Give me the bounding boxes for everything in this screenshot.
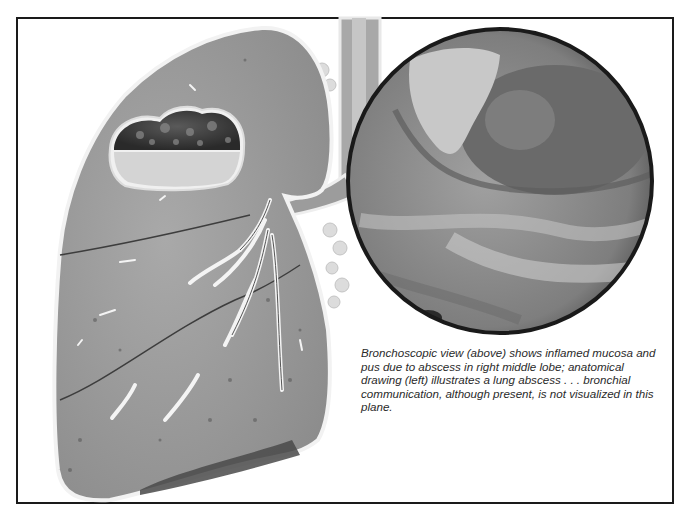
abscess-cavity bbox=[110, 107, 245, 191]
figure-artwork bbox=[0, 0, 693, 521]
lung-anatomical-drawing bbox=[54, 28, 331, 500]
figure-caption: Bronchoscopic view (above) shows inflame… bbox=[361, 346, 661, 414]
bronchoscopic-view bbox=[348, 29, 660, 333]
